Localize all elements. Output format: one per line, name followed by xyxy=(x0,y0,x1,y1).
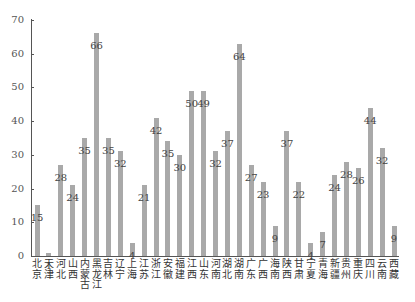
x-category-label: 山东 xyxy=(198,259,209,280)
x-category-label: 河北 xyxy=(55,259,66,280)
x-category-label: 青海 xyxy=(317,259,328,280)
bar-value-label: 37 xyxy=(275,139,299,149)
x-category-label: 天津 xyxy=(43,259,54,280)
bar-value-label: 22 xyxy=(287,190,311,200)
x-category-label: 山西 xyxy=(67,259,78,280)
y-tick-label: 40 xyxy=(2,116,24,126)
x-category-label: 福建 xyxy=(174,259,185,280)
x-category-label: 安徽 xyxy=(162,259,173,280)
bar-value-label: 9 xyxy=(263,234,287,244)
x-category-label: 湖南 xyxy=(234,259,245,280)
x-category-label: 黑龙江 xyxy=(91,259,102,291)
bar-value-label: 30 xyxy=(168,163,192,173)
x-category-label: 新疆 xyxy=(329,259,340,280)
bar-value-label: 66 xyxy=(85,41,109,51)
y-tick-label: 60 xyxy=(2,49,24,59)
x-category-label: 四川 xyxy=(365,259,376,280)
bar-value-label: 21 xyxy=(132,193,156,203)
bar-value-label: 9 xyxy=(382,234,406,244)
x-category-label: 广西 xyxy=(258,259,269,280)
x-axis xyxy=(31,256,399,257)
bar-value-label: 32 xyxy=(204,159,228,169)
bar-value-label: 49 xyxy=(192,99,216,109)
x-category-label: 西藏 xyxy=(389,259,400,280)
bar-value-label: 35 xyxy=(156,149,180,159)
bar-value-label: 35 xyxy=(96,146,120,156)
bar-value-label: 32 xyxy=(108,159,132,169)
bar xyxy=(154,118,159,256)
bar-value-label: 35 xyxy=(73,146,97,156)
bar-value-label: 32 xyxy=(370,156,394,166)
y-tick-label: 10 xyxy=(2,217,24,227)
bar-value-label: 44 xyxy=(358,116,382,126)
y-tick-mark xyxy=(31,20,34,21)
x-category-label: 陕西 xyxy=(281,259,292,280)
x-category-label: 吉林 xyxy=(103,259,114,280)
bar-value-label: 37 xyxy=(215,139,239,149)
bar-value-label: 64 xyxy=(227,52,251,62)
x-category-label: 湖北 xyxy=(222,259,233,280)
bar-value-label: 24 xyxy=(61,193,85,203)
y-tick-mark xyxy=(31,54,34,55)
y-tick-mark xyxy=(31,121,34,122)
bar-value-label: 26 xyxy=(346,176,370,186)
x-category-label: 江苏 xyxy=(139,259,150,280)
y-tick-label: 50 xyxy=(2,82,24,92)
bar-value-label: 27 xyxy=(239,173,263,183)
bar-value-label: 7 xyxy=(311,240,335,250)
x-category-label: 辽宁 xyxy=(115,259,126,280)
x-category-label: 河南 xyxy=(210,259,221,280)
bar-value-label: 28 xyxy=(49,173,73,183)
bar xyxy=(368,108,373,256)
x-category-label: 内蒙古 xyxy=(79,259,90,291)
bar-value-label: 24 xyxy=(323,183,347,193)
y-tick-mark xyxy=(31,87,34,88)
bar-chart: 010203040506070 151282435663532421423530… xyxy=(0,0,415,302)
x-category-label: 上海 xyxy=(127,259,138,280)
y-tick-label: 30 xyxy=(2,150,24,160)
x-category-label: 浙江 xyxy=(151,259,162,280)
x-category-label: 宁夏 xyxy=(305,259,316,280)
x-category-label: 广东 xyxy=(246,259,257,280)
x-category-label: 江西 xyxy=(186,259,197,280)
x-category-label: 海南 xyxy=(270,259,281,280)
bar xyxy=(94,33,99,256)
x-category-label: 贵州 xyxy=(341,259,352,280)
x-category-label: 甘肃 xyxy=(293,259,304,280)
y-tick-mark xyxy=(31,155,34,156)
y-tick-label: 0 xyxy=(2,251,24,261)
bar xyxy=(201,91,206,256)
bar-value-label: 15 xyxy=(25,213,49,223)
bar xyxy=(46,253,51,256)
y-tick-mark xyxy=(31,189,34,190)
bar-value-label: 23 xyxy=(251,190,275,200)
bar xyxy=(237,44,242,256)
bar-value-label: 42 xyxy=(144,126,168,136)
bar xyxy=(189,91,194,256)
y-tick-label: 20 xyxy=(2,184,24,194)
bar xyxy=(225,131,230,256)
y-tick-label: 70 xyxy=(2,15,24,25)
y-tick-mark xyxy=(31,256,34,257)
x-category-label: 云南 xyxy=(377,259,388,280)
x-category-label: 重庆 xyxy=(353,259,364,280)
x-category-label: 北京 xyxy=(32,259,43,280)
